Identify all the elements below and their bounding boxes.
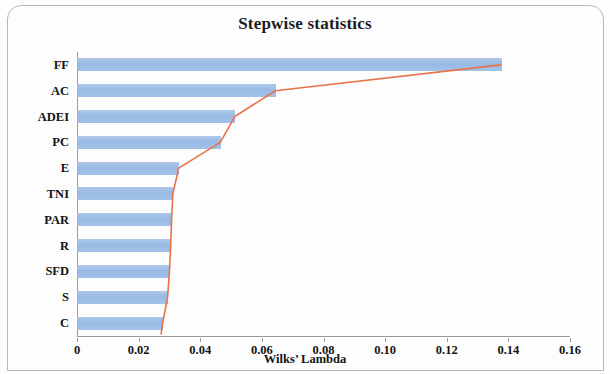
- bar-row: [77, 155, 570, 181]
- bar-tni: [77, 187, 173, 200]
- y-tick-c: C: [0, 317, 69, 329]
- x-tick-mark: [262, 338, 263, 342]
- x-tick-mark: [77, 338, 78, 342]
- bar-c: [77, 317, 163, 330]
- y-tick-ac: AC: [0, 85, 69, 97]
- figure-container: Stepwise statistics FFACADEIPCETNIPARRSF…: [0, 0, 610, 374]
- bar-par: [77, 213, 172, 226]
- y-tick-e: E: [0, 162, 69, 174]
- bar-row: [77, 129, 570, 155]
- x-tick-mark: [447, 338, 448, 342]
- bar-r: [77, 239, 171, 252]
- y-tick-pc: PC: [0, 136, 69, 148]
- x-axis-title: Wilks’ Lambda: [0, 352, 610, 367]
- y-tick-adei: ADEI: [0, 111, 69, 123]
- x-tick-mark: [200, 338, 201, 342]
- bar-row: [77, 52, 570, 78]
- bar-row: [77, 78, 570, 104]
- plot-area: FFACADEIPCETNIPARRSFDSC 00.020.040.060.0…: [77, 52, 570, 336]
- bar-row: [77, 310, 570, 336]
- bar-s: [77, 291, 168, 304]
- bar-ff: [77, 58, 502, 71]
- chart-title: Stepwise statistics: [0, 14, 610, 34]
- bar-row: [77, 284, 570, 310]
- x-tick-mark: [139, 338, 140, 342]
- x-axis-line: [77, 336, 570, 337]
- bar-ac: [77, 84, 276, 97]
- x-tick-mark: [324, 338, 325, 342]
- x-tick-mark: [508, 338, 509, 342]
- x-tick-mark: [385, 338, 386, 342]
- bar-e: [77, 162, 179, 175]
- y-tick-r: R: [0, 240, 69, 252]
- y-tick-tni: TNI: [0, 188, 69, 200]
- bar-adei: [77, 110, 235, 123]
- bar-row: [77, 207, 570, 233]
- y-tick-par: PAR: [0, 214, 69, 226]
- y-tick-sfd: SFD: [0, 265, 69, 277]
- bar-row: [77, 104, 570, 130]
- bar-row: [77, 181, 570, 207]
- x-tick-mark: [570, 338, 571, 342]
- bar-pc: [77, 136, 221, 149]
- bar-row: [77, 233, 570, 259]
- y-tick-ff: FF: [0, 59, 69, 71]
- y-tick-s: S: [0, 291, 69, 303]
- bar-sfd: [77, 265, 170, 278]
- bar-row: [77, 259, 570, 285]
